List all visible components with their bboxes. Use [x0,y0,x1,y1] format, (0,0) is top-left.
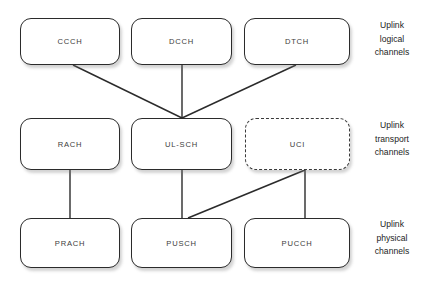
node-pusch-label: PUSCH [166,239,196,248]
node-prach[interactable]: PRACH [20,218,120,268]
caption-physical-line3: channels [362,245,422,259]
node-ccch-label: CCCH [58,37,83,46]
node-dcch-label: DCCH [169,37,194,46]
caption-physical-line2: physical [362,232,422,246]
caption-uplink-physical-channels: Uplink physical channels [362,218,422,259]
node-uci[interactable]: UCI [245,118,350,170]
node-dcch[interactable]: DCCH [131,18,232,65]
caption-physical-line1: Uplink [362,218,422,232]
caption-uplink-logical-channels: Uplink logical channels [362,19,422,60]
uplink-channel-mapping-diagram: CCCH DCCH DTCH Uplink logical channels R… [0,0,422,289]
caption-logical-line2: logical [362,33,422,47]
node-pucch-label: PUCCH [282,239,313,248]
connector-dtch-ulsch [182,65,296,118]
node-dtch-label: DTCH [285,37,309,46]
node-ul-sch[interactable]: UL-SCH [131,118,232,170]
node-pucch[interactable]: PUCCH [244,218,350,268]
caption-transport-line3: channels [362,146,422,160]
node-dtch[interactable]: DTCH [244,18,350,65]
node-rach-label: RACH [58,140,83,149]
node-rach[interactable]: RACH [20,118,120,170]
node-prach-label: PRACH [55,239,85,248]
node-ul-sch-label: UL-SCH [165,140,198,149]
connector-uci-pusch [188,170,305,218]
caption-logical-line1: Uplink [362,19,422,33]
caption-transport-line1: Uplink [362,119,422,133]
connector-ccch-ulsch [73,65,182,118]
caption-logical-line3: channels [362,46,422,60]
node-ccch[interactable]: CCCH [20,18,120,65]
caption-transport-line2: transport [362,133,422,147]
node-uci-label: UCI [290,140,305,149]
node-pusch[interactable]: PUSCH [131,218,232,268]
caption-uplink-transport-channels: Uplink transport channels [362,119,422,160]
